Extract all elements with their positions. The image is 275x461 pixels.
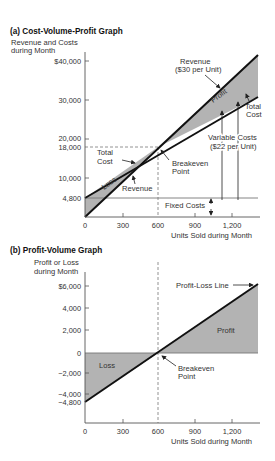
cvp-xlabel: Units Sold during Month — [171, 231, 252, 240]
svg-text:−4,800: −4,800 — [58, 398, 81, 407]
cvp-title: (a) Cost-Volume-Profit Graph — [10, 27, 123, 36]
revenue-rate-label: ($30 per Unit) — [175, 65, 222, 74]
total-cost-left-2: Cost — [97, 157, 114, 166]
pv-title: (b) Profit-Volume Graph — [10, 246, 102, 255]
cvp-figure: (a) Cost-Volume-Profit Graph Revenue and… — [0, 0, 275, 461]
svg-text:600: 600 — [152, 427, 164, 436]
svg-text:300: 300 — [117, 427, 129, 436]
svg-text:900: 900 — [189, 221, 201, 230]
pv-loss-label: Loss — [99, 361, 115, 370]
svg-text:1,200: 1,200 — [223, 221, 242, 230]
cvp-y-ticks: $40,000 30,000 20,000 18,000 10,000 4,80… — [54, 57, 89, 203]
total-cost-right-2: Cost — [246, 110, 263, 119]
pv-y-ticks: $6,000 4,000 2,000 0 −2,000 −4,000 −4,80… — [58, 282, 89, 407]
variable-costs-rate: ($22 per Unit) — [210, 142, 257, 151]
svg-text:1,200: 1,200 — [223, 427, 242, 436]
pv-x-ticks: 0 300 600 900 1,200 — [83, 419, 241, 436]
svg-text:20,000: 20,000 — [58, 134, 81, 143]
svg-text:900: 900 — [189, 427, 201, 436]
svg-text:4,800: 4,800 — [63, 194, 82, 203]
svg-text:18,000: 18,000 — [58, 143, 81, 152]
pv-xlabel: Units Sold during Month — [171, 437, 252, 446]
svg-text:$6,000: $6,000 — [58, 282, 81, 291]
svg-text:4,000: 4,000 — [63, 304, 82, 313]
pv-breakeven-label-2: Point — [178, 372, 196, 381]
svg-text:600: 600 — [152, 221, 164, 230]
pv-profit-label: Profit — [217, 326, 236, 335]
profit-loss-line-label: Profit-Loss Line — [176, 281, 229, 290]
revenue-arrow — [205, 75, 220, 88]
revenue-lower-label: Revenue — [122, 184, 152, 193]
svg-text:0: 0 — [83, 221, 87, 230]
svg-text:10,000: 10,000 — [58, 174, 81, 183]
breakeven-label-2: Point — [172, 167, 190, 176]
revenue-lower-arrow — [133, 176, 135, 184]
total-cost-arrow-left — [122, 160, 135, 163]
pv-ylabel-line1: Profit or Loss — [34, 258, 79, 267]
variable-costs-label: Variable Costs — [208, 133, 257, 142]
cvp-x-ticks: 0 300 600 900 1,200 — [83, 213, 241, 230]
svg-text:300: 300 — [117, 221, 129, 230]
cvp-ylabel-line2: during Month — [11, 46, 55, 55]
svg-text:2,000: 2,000 — [63, 326, 82, 335]
svg-text:−2,000: −2,000 — [58, 369, 81, 378]
svg-text:0: 0 — [77, 349, 81, 358]
pv-ylabel-line2: during Month — [34, 267, 78, 276]
fixed-costs-label: Fixed Costs — [165, 201, 205, 210]
svg-text:30,000: 30,000 — [58, 96, 81, 105]
svg-text:0: 0 — [83, 427, 87, 436]
svg-text:$40,000: $40,000 — [54, 57, 81, 66]
total-cost-left-1: Total — [97, 148, 113, 157]
pv-breakeven-arrow — [162, 356, 176, 366]
